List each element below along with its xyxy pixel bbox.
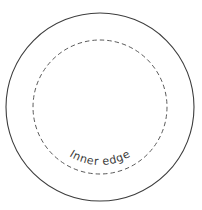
diagram-canvas: Inner edge bbox=[0, 0, 202, 210]
background bbox=[0, 0, 202, 210]
plate-diagram: Inner edge bbox=[0, 0, 202, 210]
